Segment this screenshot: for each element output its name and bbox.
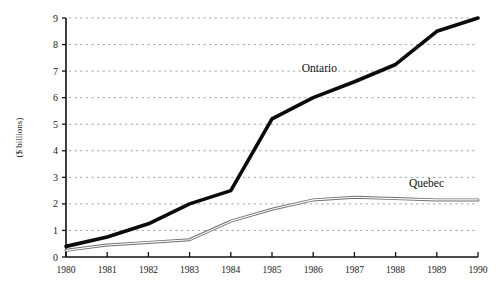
series-label-quebec: Quebec bbox=[409, 177, 444, 189]
y-tick-label-4: 4 bbox=[53, 145, 58, 156]
data-series bbox=[66, 18, 478, 250]
line-chart: 0123456789 19801981198219831984198519861… bbox=[0, 0, 502, 285]
y-tick-label-8: 8 bbox=[53, 39, 58, 50]
y-tick-label-1: 1 bbox=[53, 225, 58, 236]
x-tick-label-1987: 1987 bbox=[345, 265, 364, 275]
series-line-quebec-outline bbox=[66, 197, 478, 250]
x-tick-label-1983: 1983 bbox=[180, 265, 199, 275]
series-annotations: OntarioQuebec bbox=[302, 62, 444, 189]
x-tick-label-1986: 1986 bbox=[304, 265, 323, 275]
y-tick-label-6: 6 bbox=[53, 92, 58, 103]
x-tick-label-1990: 1990 bbox=[469, 265, 488, 275]
chart-container: 0123456789 19801981198219831984198519861… bbox=[0, 0, 502, 285]
y-axis-title: ($ billions) bbox=[14, 118, 24, 158]
y-tick-label-9: 9 bbox=[53, 13, 58, 24]
x-tick-label-1988: 1988 bbox=[386, 265, 405, 275]
x-tick-label-1985: 1985 bbox=[263, 265, 282, 275]
series-label-ontario: Ontario bbox=[302, 62, 337, 74]
y-tick-label-7: 7 bbox=[53, 66, 58, 77]
y-tick-label-5: 5 bbox=[53, 119, 58, 130]
x-tick-label-1984: 1984 bbox=[221, 265, 240, 275]
series-line-ontario bbox=[66, 18, 478, 246]
y-tick-label-0: 0 bbox=[53, 252, 58, 263]
y-axis-ticks: 0123456789 bbox=[53, 13, 66, 263]
x-tick-label-1982: 1982 bbox=[139, 265, 158, 275]
y-tick-label-3: 3 bbox=[53, 172, 58, 183]
y-tick-label-2: 2 bbox=[53, 198, 58, 209]
x-tick-label-1981: 1981 bbox=[98, 265, 117, 275]
x-tick-label-1980: 1980 bbox=[57, 265, 76, 275]
x-axis-ticks: 1980198119821983198419851986198719881989… bbox=[57, 252, 488, 275]
x-tick-label-1989: 1989 bbox=[427, 265, 446, 275]
axes bbox=[66, 18, 478, 257]
